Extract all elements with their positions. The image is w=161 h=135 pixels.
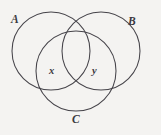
circle-c (36, 31, 116, 111)
region-label-y: y (92, 66, 97, 77)
set-label-c: C (72, 114, 80, 126)
venn-diagram-figure: A B C x y (0, 0, 161, 135)
region-label-x: x (49, 66, 54, 77)
venn-circles-svg (0, 0, 161, 135)
circle-a (12, 12, 90, 90)
set-label-b: B (128, 16, 136, 28)
set-label-a: A (11, 14, 19, 26)
